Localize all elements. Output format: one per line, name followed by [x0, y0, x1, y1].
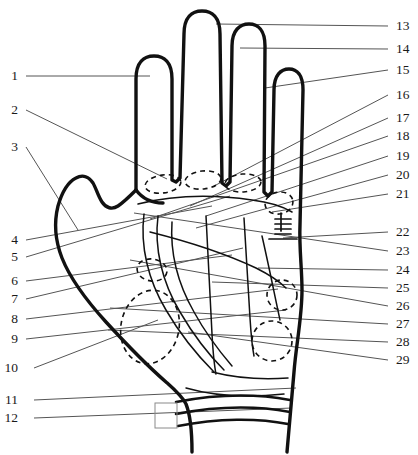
number-label-16[interactable]: 16: [396, 88, 410, 102]
number-label-2[interactable]: 2: [0, 103, 18, 117]
number-label-18[interactable]: 18: [396, 129, 410, 143]
number-label-6[interactable]: 6: [0, 274, 18, 288]
number-label-1[interactable]: 1: [0, 69, 18, 83]
number-label-27[interactable]: 27: [396, 317, 410, 331]
number-label-20[interactable]: 20: [396, 168, 410, 182]
number-label-4[interactable]: 4: [0, 233, 18, 247]
number-label-29[interactable]: 29: [396, 353, 410, 367]
number-label-21[interactable]: 21: [396, 187, 410, 201]
number-label-23[interactable]: 23: [396, 244, 410, 258]
number-label-17[interactable]: 17: [396, 111, 410, 125]
number-label-13[interactable]: 13: [396, 19, 410, 33]
hand-anatomy-figure: [0, 0, 418, 455]
number-label-7[interactable]: 7: [0, 292, 18, 306]
number-label-9[interactable]: 9: [0, 332, 18, 346]
number-label-24[interactable]: 24: [396, 263, 410, 277]
number-label-11[interactable]: 11: [0, 393, 18, 407]
number-label-8[interactable]: 8: [0, 312, 18, 326]
number-label-26[interactable]: 26: [396, 299, 410, 313]
number-label-19[interactable]: 19: [396, 149, 410, 163]
number-label-10[interactable]: 10: [0, 361, 18, 375]
number-label-14[interactable]: 14: [396, 42, 410, 56]
number-label-28[interactable]: 28: [396, 335, 410, 349]
figure-background: [0, 0, 418, 455]
number-label-12[interactable]: 12: [0, 411, 18, 425]
number-label-3[interactable]: 3: [0, 140, 18, 154]
number-label-5[interactable]: 5: [0, 250, 18, 264]
number-label-25[interactable]: 25: [396, 281, 410, 295]
number-label-22[interactable]: 22: [396, 225, 410, 239]
number-label-15[interactable]: 15: [396, 63, 410, 77]
